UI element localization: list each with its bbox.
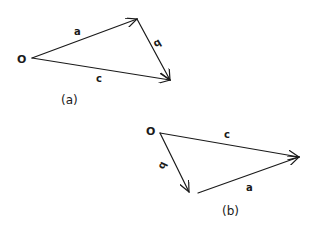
origin-label-b: O	[146, 125, 155, 138]
vector-a-in-a	[32, 19, 137, 58]
vector-b-label-in-a: b	[152, 37, 164, 50]
diagram-a: O a b c (a)	[17, 19, 170, 107]
vector-a-label-in-a: a	[74, 26, 81, 37]
vector-b-in-a	[137, 19, 170, 80]
caption-a: (a)	[61, 93, 78, 107]
vector-c-label-in-b: c	[224, 129, 230, 140]
vector-addition-diagram: O a b c (a) O c b a (b)	[0, 0, 315, 226]
vector-b-label-in-b: b	[157, 160, 170, 171]
vector-a-label-in-b: a	[246, 182, 253, 193]
diagram-b: O c b a (b)	[146, 125, 299, 218]
origin-label-a: O	[17, 53, 26, 66]
vector-c-label-in-a: c	[96, 73, 102, 84]
caption-b: (b)	[222, 204, 239, 218]
